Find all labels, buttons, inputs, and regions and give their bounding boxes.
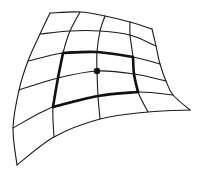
grid-column-line: [13, 13, 50, 165]
highlight-top-edge: [63, 52, 133, 57]
highlight-patch: [53, 52, 138, 107]
grid-row-line: [28, 52, 160, 64]
center-dot: [94, 68, 100, 74]
highlight-bottom-edge: [53, 92, 138, 107]
grid-svg: [0, 0, 201, 178]
grid-column-line: [152, 29, 190, 110]
grid-row-line: [19, 71, 166, 90]
warped-grid-diagram: [0, 0, 201, 178]
center-point: [94, 68, 100, 74]
highlight-left-edge: [53, 53, 63, 107]
grid-lines: [13, 12, 190, 165]
grid-row-line: [17, 110, 190, 165]
